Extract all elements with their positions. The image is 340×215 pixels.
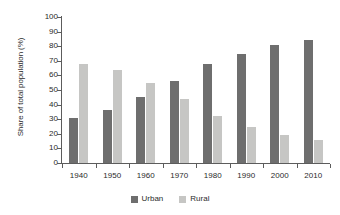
x-axis-tick-mark — [129, 164, 130, 168]
bar-urban-1980 — [203, 64, 212, 163]
bar-chart: Share of total population (%) 1009080706… — [0, 0, 340, 215]
y-axis-tick-label: 80 — [2, 41, 58, 51]
x-axis-tick-mark — [230, 164, 231, 168]
bar-urban-1990 — [237, 54, 246, 164]
y-axis-tick-label: 70 — [2, 56, 58, 66]
y-axis-tick-label: 0 — [2, 158, 58, 168]
legend-entry-rural: Rural — [179, 194, 209, 204]
legend-label: Urban — [142, 194, 164, 204]
y-axis-tick-label: 10 — [2, 143, 58, 153]
y-axis-tick-label: 90 — [2, 27, 58, 37]
y-axis-tick-label: 20 — [2, 129, 58, 139]
x-axis-tick-label: 2010 — [293, 170, 333, 181]
bar-urban-1950 — [103, 110, 112, 163]
bar-urban-1970 — [170, 81, 179, 163]
bar-group — [270, 17, 289, 163]
bar-group — [136, 17, 155, 163]
y-axis-tick-labels: 1009080706050403020100 — [0, 17, 58, 163]
bar-group — [304, 17, 323, 163]
plot-area — [62, 17, 330, 163]
legend-swatch-icon — [131, 196, 138, 203]
bar-group — [103, 17, 122, 163]
bar-rural-1950 — [113, 70, 122, 163]
x-axis-tick-mark — [263, 164, 264, 168]
y-axis-tick-label: 50 — [2, 85, 58, 95]
y-axis-tick-label: 60 — [2, 70, 58, 80]
legend-label: Rural — [190, 194, 209, 204]
bar-group — [237, 17, 256, 163]
bar-group — [170, 17, 189, 163]
x-axis-tick-mark — [163, 164, 164, 168]
bar-urban-1960 — [136, 97, 145, 163]
legend-swatch-icon — [179, 196, 186, 203]
bar-rural-1970 — [180, 99, 189, 163]
bar-rural-1960 — [146, 83, 155, 163]
bar-rural-1980 — [213, 116, 222, 163]
bar-group — [203, 17, 222, 163]
bar-urban-2010 — [304, 40, 313, 163]
bar-group — [69, 17, 88, 163]
bar-rural-2010 — [314, 140, 323, 163]
x-axis-tick-mark — [330, 164, 331, 168]
x-axis-tick-mark — [297, 164, 298, 168]
bar-rural-1940 — [79, 64, 88, 163]
x-axis-tick-mark — [196, 164, 197, 168]
y-axis-tick-label: 30 — [2, 114, 58, 124]
bar-urban-2000 — [270, 45, 279, 163]
bar-urban-1940 — [69, 118, 78, 163]
x-axis-tick-mark — [62, 164, 63, 168]
bar-rural-2000 — [280, 135, 289, 163]
x-axis-tick-mark — [96, 164, 97, 168]
bar-rural-1990 — [247, 127, 256, 164]
chart-legend: UrbanRural — [0, 192, 340, 206]
legend-entry-urban: Urban — [131, 194, 164, 204]
y-axis-tick-label: 100 — [2, 12, 58, 22]
y-axis-tick-label: 40 — [2, 100, 58, 110]
